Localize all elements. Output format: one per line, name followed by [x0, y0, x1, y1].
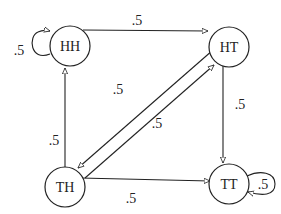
node-tt: TT: [209, 164, 249, 204]
edge-label-tt-tt: .5: [258, 177, 269, 192]
edge-ht-th: [78, 50, 213, 168]
edge-label-hh-ht: .5: [132, 13, 143, 28]
edge-hh-hh: [32, 30, 50, 55]
node-th-label: TH: [56, 180, 75, 195]
edge-label-hh-hh: .5: [14, 43, 25, 58]
edge-label-th-ht: .5: [152, 116, 163, 131]
node-ht-label: HT: [220, 40, 239, 55]
node-ht: HT: [209, 27, 249, 67]
edge-label-ht-th: .5: [113, 82, 124, 97]
edge-th-tt: [80, 178, 210, 181]
edge-hh-ht: [83, 30, 208, 31]
edge-label-th-hh: .5: [49, 133, 60, 148]
node-th: TH: [45, 167, 85, 207]
node-hh: HH: [50, 26, 90, 66]
node-hh-label: HH: [60, 39, 80, 54]
edge-th-ht: [85, 65, 214, 178]
edge-label-ht-tt: .5: [235, 97, 246, 112]
edge-label-th-tt: .5: [126, 191, 137, 206]
node-tt-label: TT: [220, 177, 238, 192]
state-transition-diagram: HH HT TH TT .5 .5 .5 .5 .5 .5 .5 .5: [0, 0, 281, 214]
